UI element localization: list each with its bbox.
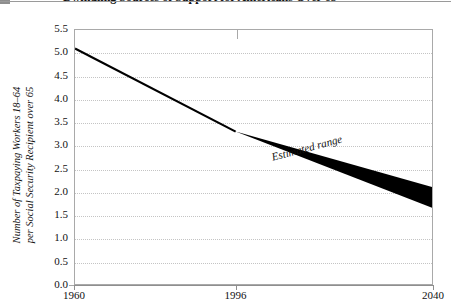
y-axis-tick-label: 1.0 [36,231,68,243]
y-axis-tick-labels: 0.00.51.01.52.02.53.03.54.04.55.05.5 [30,0,68,304]
y-axis-title-line-1: Number of Taxpaying Workers 18–64 [11,50,24,280]
y-axis-baseline-tick [69,285,74,286]
historical-trend-line [75,48,236,131]
y-axis-tick-label: 4.5 [36,69,68,81]
y-axis-tick-label: 0.5 [36,255,68,267]
x-axis-line [74,285,433,286]
plot-area: Estimated range [74,29,433,285]
y-axis-tick-label: 2.5 [36,162,68,174]
y-axis-tick-label: 5.5 [36,22,68,34]
chart-page: EXHIBIT 10.1 Dwindling Sources of Suppor… [0,0,451,304]
x-axis-tick-label: 2040 [393,289,451,301]
y-axis-tick-label: 4.0 [36,92,68,104]
x-axis-tick-label: 1960 [34,289,114,301]
y-axis-tick-label: 5.0 [36,45,68,57]
x-axis-tick-label: 1996 [196,289,276,301]
series-plot [75,30,432,284]
y-axis-tick-label: 3.5 [36,115,68,127]
y-axis-tick-label: 1.5 [36,208,68,220]
y-axis-tick-label: 3.0 [36,138,68,150]
y-axis-tick-label: 2.0 [36,185,68,197]
